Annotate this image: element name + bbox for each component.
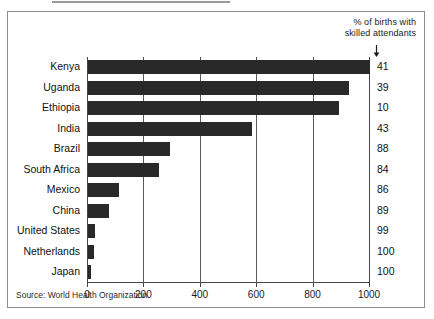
bar-row: Mexico86 [87,180,369,201]
bar-row: Uganda39 [87,78,369,99]
x-tick-label: 400 [191,289,208,300]
bar-row: South Africa84 [87,160,369,181]
tick-800 [313,283,314,287]
annotation-value: 89 [377,203,389,218]
annotation-header-line-1: % of births with [298,17,416,28]
plot-right-border [369,57,370,283]
source-note: Source: World Health Organization. [16,290,150,300]
figure-frame: % of births with skilled attendants 0200… [7,11,425,308]
bar-row: Kenya41 [87,57,369,78]
bar [88,224,95,238]
bar-row: India43 [87,119,369,140]
annotation-value: 84 [377,162,389,177]
bar-row: Netherlands100 [87,242,369,263]
category-label: Mexico [47,182,80,197]
category-label: Kenya [50,59,80,74]
chart-plot-area: 02004006008001000 Kenya41Uganda39Ethiopi… [87,57,369,283]
annotation-value: 41 [377,59,389,74]
annotation-value: 99 [377,223,389,238]
annotation-value: 100 [377,264,395,279]
tick-0 [87,283,88,287]
annotation-value: 10 [377,100,389,115]
tick-600 [256,283,257,287]
down-arrow-icon [372,45,381,57]
bar [88,60,370,74]
x-tick-label: 1000 [358,289,380,300]
bar [88,163,159,177]
annotation-value: 86 [377,182,389,197]
bar-row: China89 [87,201,369,222]
tick-1000 [369,283,370,287]
cropped-rule-above-figure [52,1,230,3]
bar [88,245,94,259]
tick-400 [200,283,201,287]
category-label: Netherlands [23,244,80,259]
category-label: India [57,121,80,136]
category-label: Ethiopia [42,100,80,115]
bar [88,183,119,197]
bar-row: Japan100 [87,262,369,283]
bar-row: United States99 [87,221,369,242]
annotation-value: 43 [377,121,389,136]
bar [88,204,109,218]
annotation-value: 100 [377,244,395,259]
annotation-column-header: % of births with skilled attendants [298,17,416,39]
category-label: United States [17,223,80,238]
bar-row: Ethiopia10 [87,98,369,119]
bar [88,142,170,156]
bar [88,265,91,279]
tick-200 [143,283,144,287]
x-tick-label: 800 [304,289,321,300]
category-label: Brazil [54,141,80,156]
category-label: Uganda [43,80,80,95]
annotation-header-line-2: skilled attendants [298,28,416,39]
annotation-value: 39 [377,80,389,95]
x-tick-label: 600 [248,289,265,300]
bar [88,81,349,95]
bar [88,122,252,136]
category-label: South Africa [23,162,80,177]
bar-row: Brazil88 [87,139,369,160]
category-label: Japan [51,264,80,279]
bar [88,101,339,115]
annotation-value: 88 [377,141,389,156]
category-label: China [53,203,80,218]
